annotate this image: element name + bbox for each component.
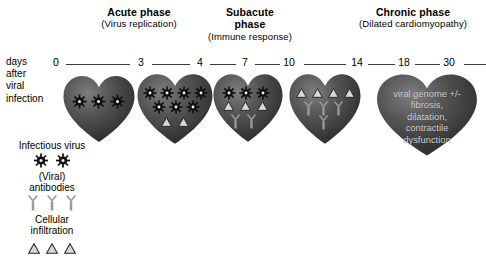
triangle-icon	[178, 117, 189, 127]
legend-symbols-virus	[0, 153, 104, 169]
legend-label-antibodies: antibodies	[0, 182, 104, 194]
triangle-icon	[64, 240, 76, 258]
subacute-early-heart	[212, 72, 284, 144]
phase-heading-subacute: Subacute phase (Immune response)	[180, 6, 320, 42]
timeline-segment	[152, 64, 190, 65]
timeline-tick-0: 0	[53, 56, 59, 68]
triangle-icon	[240, 101, 251, 111]
axis-label-line-1: days	[6, 56, 43, 68]
acute-late-heart	[136, 72, 214, 146]
virus-icon	[160, 86, 174, 100]
axis-side-label: days after viral infection	[6, 56, 43, 105]
antibody-icon	[230, 114, 241, 129]
timeline-tick-10: 10	[283, 56, 295, 68]
antibody-icon	[27, 195, 39, 215]
legend-symbols-antibody	[0, 195, 104, 211]
timeline-tick-18: 18	[398, 56, 410, 68]
virus-icon	[152, 100, 166, 114]
antibody-icon	[46, 195, 58, 215]
timeline-tick-7: 7	[242, 56, 248, 68]
timeline-tick-3: 3	[138, 56, 144, 68]
legend-label-infiltration: infiltration	[0, 225, 104, 237]
legend-symbols-triangle	[0, 238, 104, 254]
subacute-late-heart	[288, 72, 362, 146]
virus-icon	[177, 86, 191, 100]
legend-label-cellular: Cellular	[0, 214, 104, 226]
legend: Infectious virus (Viral) antibodies Cell…	[0, 140, 104, 255]
timeline-segment	[255, 64, 280, 65]
virus-icon	[72, 94, 87, 109]
phase-heading-chronic: Chronic phase (Dilated cardiomyopathy)	[340, 6, 486, 30]
antibody-icon	[333, 101, 344, 116]
axis-label-line-3: viral	[6, 80, 43, 92]
timeline-segment	[368, 64, 395, 65]
timeline-segment	[66, 64, 130, 65]
virus-icon	[110, 94, 125, 109]
timeline-segment	[415, 64, 440, 65]
chronic-dilated-heart: viral genome +/-fibrosis,dilatation,cont…	[375, 72, 479, 158]
triangle-icon	[28, 240, 40, 258]
triangle-icon	[223, 101, 234, 111]
phase-subtitle-chronic: (Dilated cardiomyopathy)	[340, 18, 486, 29]
virus-icon	[222, 86, 236, 100]
timeline-segment	[304, 64, 346, 65]
timeline-tick-4: 4	[197, 56, 203, 68]
triangle-icon	[46, 240, 58, 258]
virus-icon	[169, 100, 183, 114]
axis-label-line-2: after	[6, 68, 43, 80]
axis-label-line-4: infection	[6, 93, 43, 105]
phase-title-subacute-line2: phase	[180, 18, 320, 30]
antibody-icon	[65, 195, 77, 215]
triangle-icon	[344, 88, 355, 98]
phase-title-chronic: Chronic phase	[340, 6, 486, 18]
virus-icon	[143, 86, 157, 100]
virus-icon	[194, 86, 208, 100]
virus-icon	[186, 100, 200, 114]
timeline-segment	[464, 64, 486, 65]
timeline-tick-30: 30	[443, 56, 455, 68]
legend-item-viral-antibodies: (Viral) antibodies	[0, 171, 104, 211]
phase-title-subacute: Subacute	[180, 6, 320, 18]
antibody-icon	[318, 115, 329, 130]
figure-root: { "figure": { "title": "Time course of v…	[0, 0, 486, 264]
legend-label-infectious-virus: Infectious virus	[0, 140, 104, 152]
triangle-icon	[257, 101, 268, 111]
virus-icon	[34, 153, 49, 172]
antibody-icon	[303, 101, 314, 116]
legend-label-viral: (Viral)	[0, 171, 104, 183]
acute-early-heart	[62, 74, 136, 144]
legend-item-cellular-infiltration: Cellular infiltration	[0, 214, 104, 254]
triangle-icon	[328, 88, 339, 98]
timeline-tick-14: 14	[351, 56, 363, 68]
virus-icon	[256, 86, 270, 100]
virus-icon	[91, 94, 106, 109]
antibody-icon	[246, 114, 257, 129]
legend-item-infectious-virus: Infectious virus	[0, 140, 104, 169]
triangle-icon	[161, 117, 172, 127]
triangle-icon	[312, 88, 323, 98]
virus-icon	[56, 153, 71, 172]
antibody-icon	[318, 101, 329, 116]
timeline-segment	[210, 64, 236, 65]
triangle-icon	[296, 88, 307, 98]
timeline-axis: 03471014183090	[52, 56, 482, 72]
virus-icon	[239, 86, 253, 100]
phase-subtitle-subacute: (Immune response)	[180, 31, 320, 42]
